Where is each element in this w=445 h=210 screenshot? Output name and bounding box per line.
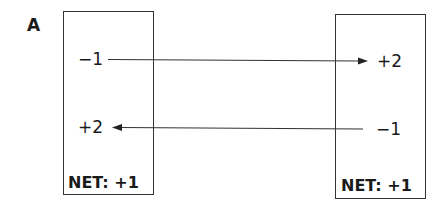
arrow-right-icon — [108, 58, 368, 65]
arrow-left-icon — [112, 124, 363, 131]
arrows-layer — [0, 0, 445, 210]
